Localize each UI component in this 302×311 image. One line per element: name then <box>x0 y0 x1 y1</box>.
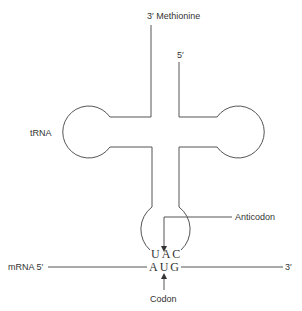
anticodon-loop-right <box>179 207 190 250</box>
anticodon-label: Anticodon <box>235 212 275 222</box>
acceptor-stem-5prime <box>179 62 217 117</box>
acceptor-stem-3prime <box>110 25 151 117</box>
right-loop <box>217 106 264 158</box>
right-lower-stem <box>179 147 217 207</box>
left-lower-stem <box>110 147 152 207</box>
five-prime-top-label: 5′ <box>177 50 184 60</box>
left-loop <box>63 106 110 158</box>
methionine-label: 3′ Methionine <box>147 11 200 21</box>
anticodon-loop <box>141 207 152 250</box>
codon-label: Codon <box>150 294 177 304</box>
mrna-3prime-label: 3′ <box>285 262 292 272</box>
trna-diagram: 3′ Methionine 5′ tRNA Anticodon UAC AUG … <box>0 0 302 311</box>
trna-label: tRNA <box>30 128 52 138</box>
anticodon-pointer <box>164 217 232 249</box>
mrna-5prime-label: mRNA 5′ <box>8 262 44 272</box>
codon-sequence: AUG <box>149 260 181 274</box>
anticodon-sequence: UAC <box>151 247 182 261</box>
